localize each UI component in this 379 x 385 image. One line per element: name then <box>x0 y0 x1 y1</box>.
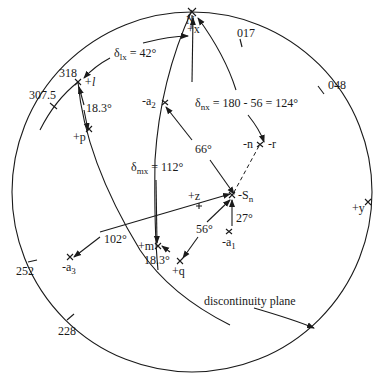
azimuth-tick-228: 228 <box>58 314 76 338</box>
angle-102: 102° <box>104 232 127 246</box>
point-minus-a1: -a1 <box>222 229 236 251</box>
angle-27: 27° <box>236 211 253 225</box>
azimuth-tick-307: 307.5 <box>29 88 57 109</box>
svg-text:-a1: -a1 <box>222 235 236 251</box>
great-circle-n-m <box>155 10 192 270</box>
stereonet-diagram: N 017 048 318 307.5 252 228 +x δlx = 42° <box>0 0 379 385</box>
svg-text:318: 318 <box>59 66 77 80</box>
angle-66: 66° <box>195 142 212 156</box>
delta-mx-annotation: δmx = 112° <box>131 160 183 176</box>
svg-text:-r: -r <box>268 137 276 151</box>
svg-text:-a3: -a3 <box>62 260 76 276</box>
azimuth-tick-318: 318 <box>59 66 77 80</box>
azimuth-tick-048: 048 <box>318 78 346 94</box>
svg-text:228: 228 <box>58 324 76 338</box>
point-plus-m: +m <box>138 239 161 253</box>
dashed-n-Sn <box>233 146 259 194</box>
point-plus-p: +p <box>73 126 92 144</box>
point-minus-n-r: -n -r <box>243 137 276 151</box>
angle-56: 56° <box>196 222 213 236</box>
svg-text:-n: -n <box>243 137 253 151</box>
svg-text:048: 048 <box>328 78 346 92</box>
svg-text:+y: +y <box>352 201 365 215</box>
point-minus-Sn: -Sn <box>229 188 254 204</box>
delta-lx-annotation: δlx = 42° <box>114 46 156 62</box>
svg-text:017: 017 <box>237 26 255 40</box>
svg-text:252: 252 <box>16 264 34 278</box>
angle-l-p: 18.3° <box>86 101 112 115</box>
point-plus-q: +q <box>172 258 185 278</box>
svg-text:+z: +z <box>188 189 200 203</box>
point-minus-a3: -a3 <box>62 254 76 276</box>
discontinuity-plane-label: discontinuity plane <box>204 294 296 308</box>
svg-text:307.5: 307.5 <box>29 88 56 102</box>
discontinuity-plane-great-circle <box>40 82 230 325</box>
svg-text:-Sn: -Sn <box>238 188 254 204</box>
svg-text:-a2: -a2 <box>142 94 156 110</box>
point-plus-y: +y <box>352 199 371 215</box>
svg-text:+l: +l <box>84 75 96 89</box>
delta-nx-annotation: δnx = 180 - 56 = 124° <box>195 96 298 112</box>
azimuth-tick-017: 017 <box>237 26 255 47</box>
svg-text:+p: +p <box>73 130 86 144</box>
svg-text:+m: +m <box>138 239 155 253</box>
angle-m-q: 18.3° <box>144 253 170 267</box>
svg-text:+q: +q <box>172 264 185 278</box>
